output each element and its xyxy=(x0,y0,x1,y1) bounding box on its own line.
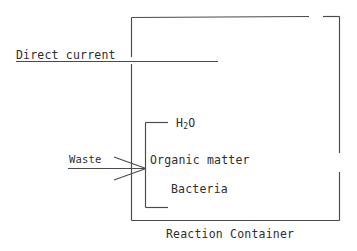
container-top-edge-left xyxy=(132,17,310,18)
reaction-container-caption: Reaction Container xyxy=(166,229,294,241)
water-formula-oxygen: O xyxy=(188,116,195,130)
organic-matter-label: Organic matter xyxy=(150,155,250,167)
waste-arrowhead-upper-barb xyxy=(114,157,146,169)
direct-current-label: Direct current xyxy=(16,50,116,62)
water-formula-label: H2O xyxy=(176,118,195,131)
bacteria-label: Bacteria xyxy=(171,184,228,196)
diagram-canvas: Direct current Waste H2O Organic matter … xyxy=(0,0,357,251)
waste-arrowhead-lower-barb xyxy=(114,169,146,181)
waste-label: Waste xyxy=(69,154,102,165)
